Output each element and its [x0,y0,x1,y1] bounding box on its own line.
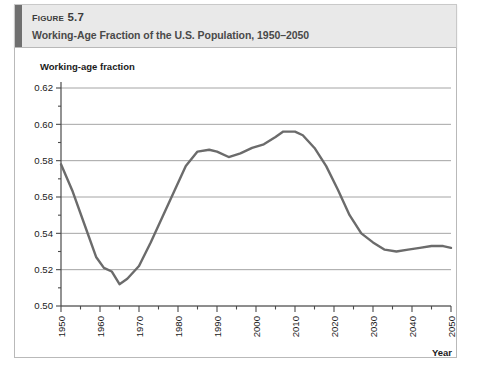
x-tick-label: 1960 [95,316,106,337]
x-axis-label: Year [432,347,452,358]
x-tick-label: 1990 [212,316,223,337]
y-tick-label: 0.58 [34,155,53,166]
figure-title: Working-Age Fraction of the U.S. Populat… [32,27,450,43]
y-tick-label: 0.60 [34,119,53,130]
y-tick-label: 0.54 [34,228,53,239]
figure-number-value: 5.7 [67,11,84,23]
line-chart-svg: 0.500.520.540.560.580.600.62195019601970… [15,48,458,358]
x-tick-label: 1970 [134,316,145,337]
y-tick-label: 0.62 [34,82,53,93]
x-tick-label: 2030 [368,316,379,337]
y-tick-label: 0.50 [34,300,53,311]
y-tick-label: 0.52 [34,264,53,275]
x-tick-label: 1950 [56,316,67,337]
figure-number-line: Figure 5.7 [32,9,450,25]
figure-root: Figure 5.7 Working-Age Fraction of the U… [0,0,479,386]
figure-header-text: Figure 5.7 Working-Age Fraction of the U… [32,9,450,43]
x-tick-label: 2020 [329,316,340,337]
x-tick-label: 2050 [446,316,457,337]
figure-header: Figure 5.7 Working-Age Fraction of the U… [14,4,457,48]
figure-box: Figure 5.7 Working-Age Fraction of the U… [14,4,457,358]
x-tick-label: 2000 [251,316,262,337]
source-note [14,374,434,384]
header-accent-bar [15,5,22,47]
y-tick-label: 0.56 [34,191,53,202]
chart-panel: Working-age fraction 0.500.520.540.560.5… [14,48,457,358]
data-line-working-age-fraction [61,132,451,285]
figure-number-prefix: Figure [32,11,64,23]
x-tick-label: 1980 [173,316,184,337]
x-tick-label: 2040 [407,316,418,337]
x-tick-label: 2010 [290,316,301,337]
